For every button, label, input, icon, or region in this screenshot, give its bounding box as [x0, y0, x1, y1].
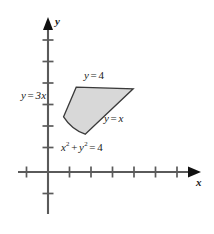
region-of-integration-figure: y=4 y=3x y=x x2+y2=4 x y	[0, 0, 214, 234]
label-y-equals-3x: y=3x	[21, 90, 46, 101]
label-circle-equation: x2+y2=4	[61, 142, 103, 153]
y-axis-label: y	[55, 16, 60, 27]
label-y-equals-4: y=4	[84, 70, 104, 81]
label-y-equals-x: y=x	[104, 113, 124, 124]
x-axis-label: x	[196, 177, 202, 188]
y-axis-arrowhead	[43, 17, 53, 30]
shaded-region	[64, 87, 134, 134]
